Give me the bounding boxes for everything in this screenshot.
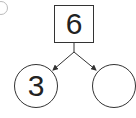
- part-left-value: 3: [28, 69, 45, 103]
- part-circle-left: 3: [14, 64, 58, 108]
- part-circle-right[interactable]: [92, 64, 136, 108]
